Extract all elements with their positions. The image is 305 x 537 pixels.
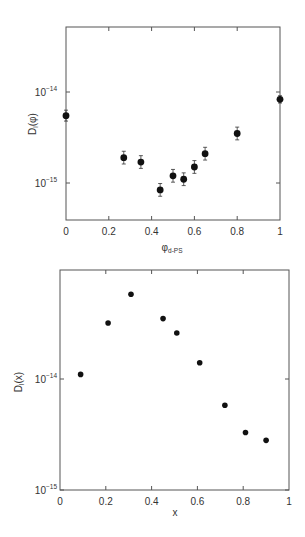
x-axis-ticks: 00.20.40.60.81 xyxy=(63,27,283,237)
chart-bottom-diffusion-vs-x: 00.20.40.60.81 10−1410−15 x Dl(x) xyxy=(13,270,292,518)
y-axis-ticks: 10−1410−15 xyxy=(35,85,280,189)
data-point xyxy=(170,172,177,179)
data-point xyxy=(197,360,203,366)
data-point xyxy=(160,316,166,322)
plot-frame xyxy=(66,27,280,220)
x-tick-label: 0.2 xyxy=(102,226,116,237)
data-point xyxy=(78,372,84,378)
y-tick-label: 10−15 xyxy=(35,483,58,496)
data-point xyxy=(277,96,284,103)
data-point xyxy=(222,402,228,408)
data-point xyxy=(63,112,70,119)
x-tick-label: 0.8 xyxy=(230,226,244,237)
data-point xyxy=(263,438,269,444)
data-point xyxy=(128,291,134,297)
data-point xyxy=(202,150,209,157)
x-axis-label: x xyxy=(173,507,178,518)
figure: 00.20.40.60.81 10−1410−15 φd-PS Dl(φ) 00… xyxy=(0,0,305,537)
y-tick-label: 10−14 xyxy=(35,372,58,385)
y-axis-label: Dl(φ) xyxy=(27,113,39,135)
x-axis-ticks: 00.20.40.60.81 xyxy=(57,270,292,507)
data-points xyxy=(78,291,269,443)
data-point xyxy=(180,176,187,183)
y-axis-ticks: 10−1410−15 xyxy=(35,372,289,496)
x-tick-label: 0.2 xyxy=(99,496,113,507)
data-point xyxy=(105,320,111,326)
x-tick-label: 0 xyxy=(63,226,69,237)
data-point xyxy=(243,430,249,436)
data-point xyxy=(157,186,164,193)
x-tick-label: 0 xyxy=(57,496,63,507)
data-point xyxy=(120,154,127,161)
data-point xyxy=(234,130,241,137)
data-point xyxy=(174,330,180,336)
y-axis-label: Dl(x) xyxy=(13,372,25,392)
y-tick-label: 10−15 xyxy=(35,176,58,189)
x-tick-label: 0.4 xyxy=(145,226,159,237)
x-tick-label: 0.6 xyxy=(190,496,204,507)
y-tick-label: 10−14 xyxy=(35,85,58,98)
x-tick-label: 1 xyxy=(286,496,292,507)
x-tick-label: 1 xyxy=(277,226,283,237)
plot-frame xyxy=(60,270,289,490)
chart-top-diffusion-vs-phi: 00.20.40.60.81 10−1410−15 φd-PS Dl(φ) xyxy=(27,27,283,254)
data-points xyxy=(63,96,284,197)
data-point xyxy=(191,164,198,171)
x-tick-label: 0.6 xyxy=(187,226,201,237)
x-tick-label: 0.4 xyxy=(145,496,159,507)
data-point xyxy=(138,159,145,166)
x-tick-label: 0.8 xyxy=(236,496,250,507)
x-axis-label: φd-PS xyxy=(162,242,184,254)
